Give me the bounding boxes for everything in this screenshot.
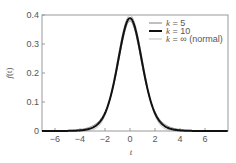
y-tick-label: 0.4 — [26, 10, 39, 20]
svg-text:k = ∞ (normal): k = ∞ (normal) — [166, 34, 223, 44]
x-tick-label: 4 — [177, 134, 182, 144]
x-tick-label: 2 — [152, 134, 157, 144]
x-tick-label: 0 — [127, 134, 132, 144]
legend-label-normal: = ∞ (normal) — [170, 34, 223, 44]
y-axis-label: f(t) — [4, 67, 14, 78]
x-tick-label: −4 — [75, 134, 85, 144]
y-tick-label: 0.2 — [26, 68, 39, 78]
y-tick-label: 0.1 — [26, 97, 39, 107]
curves — [42, 15, 228, 131]
legend: k = 5 k = 10 k = ∞ (normal) — [149, 18, 223, 44]
curve-normal — [42, 15, 228, 131]
x-tick-label: −6 — [50, 134, 60, 144]
x-tick-label: 6 — [202, 134, 207, 144]
y-tick-label: 0 — [34, 126, 39, 136]
legend-item-normal: k = ∞ (normal) — [149, 34, 223, 44]
chart: −6−4−20246 00.10.20.30.4 t f(t) k = 5 k … — [0, 0, 236, 163]
svg-text:f(t): f(t) — [4, 67, 14, 78]
x-tick-label: −2 — [100, 134, 110, 144]
x-axis-label: t — [130, 147, 133, 157]
y-axis-label-arg: (t) — [4, 67, 14, 76]
y-tick-label: 0.3 — [26, 39, 39, 49]
